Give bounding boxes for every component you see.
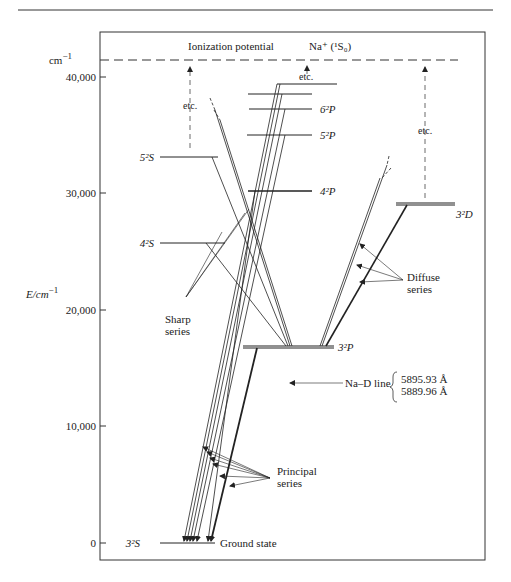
diffuse-series-label-2: series	[407, 283, 432, 295]
ion-state-label: Na⁺ (¹S₀)	[309, 40, 351, 53]
sharp-series-label-1: Sharp	[165, 313, 191, 325]
level-label-4s: 4²S	[140, 237, 155, 249]
level-label-5s: 5²S	[140, 151, 155, 163]
na-d-wavelength-2: 5889.96 Å	[401, 385, 448, 397]
y-axis-title: E/cm−1	[25, 285, 58, 300]
level-label-5p: 5²P	[320, 129, 336, 141]
brace	[390, 372, 397, 402]
principal-series-label-1: Principal	[277, 465, 317, 477]
y-axis	[100, 77, 106, 543]
etc-arrows	[190, 66, 425, 198]
sharp-series-transitions	[206, 110, 292, 346]
na-d-label: Na–D line	[345, 377, 391, 389]
level-label-3d: 3²D	[455, 208, 473, 220]
level-label-4p: 4²P	[320, 185, 336, 197]
etc-label-d: etc.	[418, 125, 432, 136]
etc-label-p: etc.	[299, 71, 313, 82]
level-label-3s: 3²S	[125, 537, 141, 549]
tick-label-20000: 20,000	[66, 304, 97, 316]
etc-label-s: etc.	[183, 100, 197, 111]
principal-series-label-2: series	[277, 477, 302, 489]
unit-label: cm−1	[49, 51, 72, 66]
level-label-6p: 6²P	[320, 103, 336, 115]
energy-level-diagram: 40,000 30,000 20,000 10,000 0 E/cm−1 cm−…	[0, 0, 511, 582]
tick-label-40000: 40,000	[66, 71, 97, 83]
diffuse-series-label-1: Diffuse	[407, 271, 440, 283]
na-d-wavelength-1: 5895.93 Å	[401, 373, 448, 385]
ionization-label: Ionization potential	[188, 40, 274, 52]
sharp-series-label-2: series	[165, 325, 190, 337]
tick-label-0: 0	[91, 537, 97, 549]
level-label-3p: 3²P	[337, 341, 354, 353]
ground-state-label: Ground state	[220, 537, 277, 549]
tick-label-10000: 10,000	[66, 420, 97, 432]
sharp-series-dashed	[210, 98, 220, 120]
principal-series-transitions	[184, 84, 285, 541]
tick-label-30000: 30,000	[66, 187, 97, 199]
